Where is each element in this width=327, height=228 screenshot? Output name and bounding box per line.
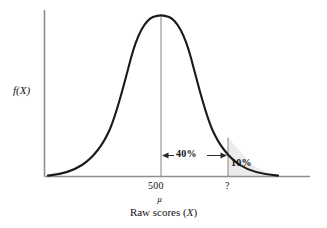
x-axis-label-suffix: ) bbox=[193, 206, 197, 218]
tail-area-label: 10% bbox=[231, 158, 252, 168]
mean-value-tick-label: 500 bbox=[148, 181, 164, 191]
normal-curve bbox=[48, 16, 278, 176]
x-axis-label: Raw scores (X) bbox=[0, 207, 327, 218]
unknown-score-tick-label: ? bbox=[225, 181, 229, 191]
distribution-plot bbox=[0, 0, 327, 228]
normal-distribution-figure: f(X) 40% 10% 500 µ ? Raw scores (X) bbox=[0, 0, 327, 228]
middle-area-label: 40% bbox=[176, 149, 197, 159]
mean-symbol-label: µ bbox=[157, 195, 162, 204]
x-axis-label-prefix: Raw scores ( bbox=[130, 206, 187, 218]
y-axis-label: f(X) bbox=[13, 85, 30, 96]
